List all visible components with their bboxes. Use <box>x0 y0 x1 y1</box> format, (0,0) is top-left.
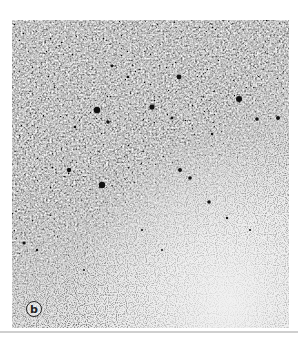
dark-cell-dot <box>226 217 228 219</box>
dark-cell-dot <box>141 229 143 231</box>
dark-cell-dot <box>94 107 100 113</box>
micrograph-panel <box>12 20 289 328</box>
dark-cell-dot <box>249 229 251 231</box>
dark-cell-dot <box>149 104 154 109</box>
dark-cell-dot <box>276 116 280 120</box>
dark-cell-dot <box>207 200 211 204</box>
panel-label-b: b <box>26 301 42 317</box>
dark-cell-dot <box>127 76 130 79</box>
dark-cell-dot <box>171 117 174 120</box>
dark-cell-dot <box>83 269 85 271</box>
dark-cell-dot <box>188 176 192 180</box>
pale-glow <box>12 20 289 328</box>
dark-cell-dot <box>111 65 114 68</box>
bottom-rule-divider <box>0 331 298 333</box>
dark-cell-dot <box>106 120 110 124</box>
dark-cell-dot <box>255 117 259 121</box>
dark-cell-dot <box>177 75 182 80</box>
dark-cell-dot <box>67 168 71 172</box>
dark-cell-dot <box>211 133 214 136</box>
dark-cell-dot <box>236 96 242 102</box>
micrograph-image <box>12 20 289 328</box>
dark-cell-dot <box>74 126 77 129</box>
dark-cell-dot <box>99 182 105 188</box>
dark-cell-dot <box>36 249 38 251</box>
dark-cell-dot <box>22 241 25 244</box>
dark-cell-dot <box>161 249 163 251</box>
dark-cell-dot <box>178 168 182 172</box>
